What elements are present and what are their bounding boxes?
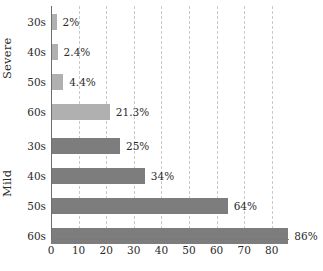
category-axis-spine (51, 6, 52, 239)
bar-severe-50s (51, 74, 63, 90)
xtick-label-80: 80 (260, 244, 284, 256)
bar-row: 64% (51, 198, 323, 214)
bar-row: 21.3% (51, 104, 323, 120)
xtick-label-40: 40 (149, 244, 173, 256)
category-label-severe-60s: 60s (18, 107, 46, 118)
bar-value-label: 25% (120, 140, 149, 152)
group-axis-label-severe: Severe (0, 12, 18, 104)
xtick-label-10: 10 (67, 244, 91, 256)
bar-value-label: 2.4% (58, 46, 91, 58)
bar-severe-60s (51, 104, 110, 120)
bar-row: 2% (51, 14, 323, 30)
plot-area: 2%2.4%4.4%21.3%25%34%64%86% (51, 6, 323, 239)
category-label-mild-50s: 50s (18, 201, 46, 212)
bar-chart: Severe Mild 30s40s50s60s30s40s50s60s 2%2… (0, 0, 323, 271)
bar-mild-40s (51, 168, 145, 184)
bar-value-label: 2% (57, 16, 80, 28)
bar-value-label: 64% (228, 200, 257, 212)
value-axis-line (51, 239, 289, 240)
xtick-label-20: 20 (94, 244, 118, 256)
category-label-severe-50s: 50s (18, 77, 46, 88)
group-axis-label-mild: Mild (0, 128, 18, 238)
bar-value-label: 86% (288, 230, 317, 242)
category-label-severe-30s: 30s (18, 17, 46, 28)
xtick-label-60: 60 (205, 244, 229, 256)
bar-row: 25% (51, 138, 323, 154)
bar-value-label: 21.3% (110, 106, 149, 118)
xtick-label-0: 0 (39, 244, 63, 256)
xtick-label-70: 70 (232, 244, 256, 256)
category-label-mild-30s: 30s (18, 141, 46, 152)
bar-mild-60s (51, 228, 288, 244)
category-label-mild-60s: 60s (18, 231, 46, 242)
bar-mild-30s (51, 138, 120, 154)
bar-value-label: 34% (145, 170, 174, 182)
category-label-mild-40s: 40s (18, 171, 46, 182)
bar-row: 4.4% (51, 74, 323, 90)
xtick-label-30: 30 (122, 244, 146, 256)
bar-mild-50s (51, 198, 228, 214)
category-label-severe-40s: 40s (18, 47, 46, 58)
bar-row: 34% (51, 168, 323, 184)
bar-value-label: 4.4% (63, 76, 96, 88)
bar-row: 86% (51, 228, 323, 244)
xtick-label-50: 50 (177, 244, 201, 256)
bar-row: 2.4% (51, 44, 323, 60)
